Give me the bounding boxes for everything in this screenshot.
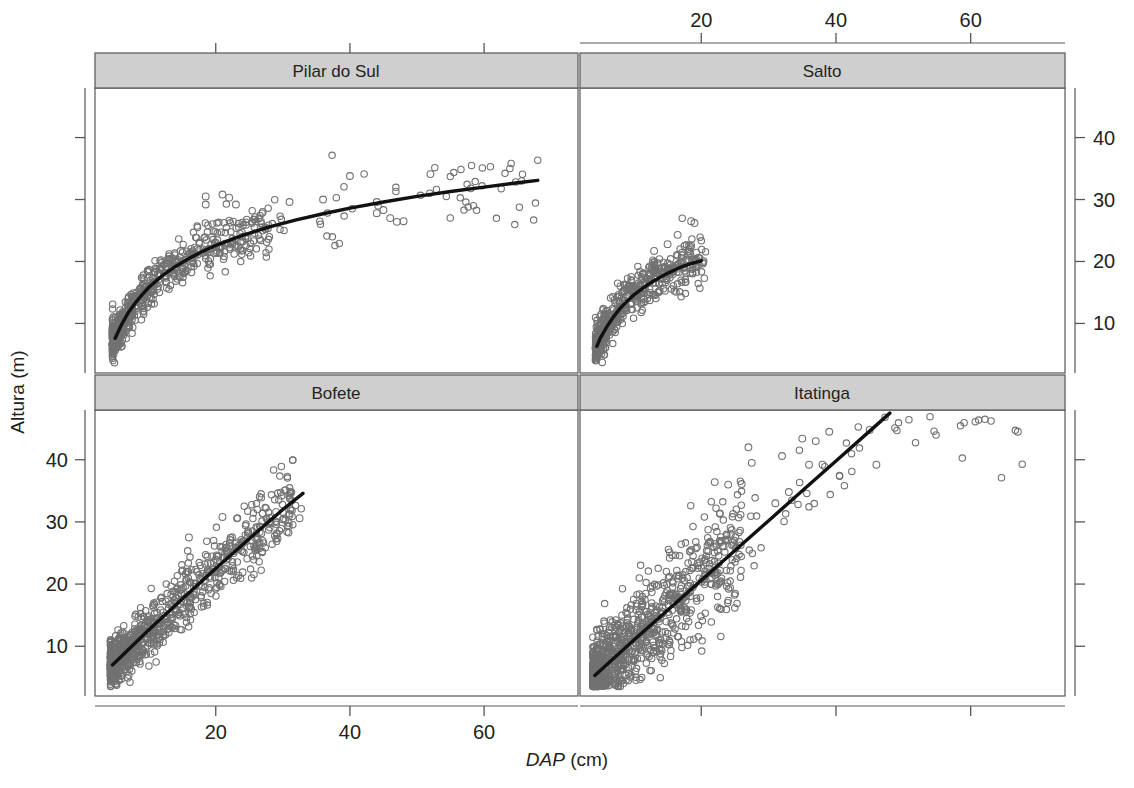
tick-label-right-y-20: 20 [1093,250,1115,272]
x-axis-title-italic: DAP [526,749,565,770]
panel-frame-bofete [95,410,578,696]
tick-label-bottom-x-60: 60 [473,721,495,743]
strip-title-itatinga: Itatinga [794,384,850,403]
panel-frame-itatinga [580,410,1065,696]
panel-frame-pilar-do-sul [95,88,578,373]
trellis-scatter-figure: Pilar do Sul Salto Bofete Itatinga [0,0,1134,788]
tick-label-left-y-10: 10 [46,635,68,657]
y-axis-title: Altura (m) [7,350,28,433]
x-axis-title-rest: (cm) [565,749,608,770]
tick-label-bottom-x-40: 40 [339,721,361,743]
tick-label-right-y-40: 40 [1093,127,1115,149]
x-axis-title: DAP (cm) [526,749,608,770]
panel-itatinga: Itatinga [580,375,1065,696]
tick-label-left-y-40: 40 [46,449,68,471]
strip-title-bofete: Bofete [311,384,360,403]
tick-label-right-y-10: 10 [1093,312,1115,334]
panel-pilar-do-sul: Pilar do Sul [95,53,578,373]
panel-bofete: Bofete [95,375,578,696]
panel-salto: Salto [580,53,1065,373]
panel-frame-salto [580,88,1065,373]
figure-root: Pilar do Sul Salto Bofete Itatinga [0,0,1134,788]
tick-label-left-y-20: 20 [46,573,68,595]
tick-label-top-x-60: 60 [960,9,982,31]
tick-label-right-y-30: 30 [1093,189,1115,211]
tick-label-bottom-x-20: 20 [205,721,227,743]
tick-label-top-x-20: 20 [690,9,712,31]
strip-title-pilar-do-sul: Pilar do Sul [293,62,380,81]
tick-label-left-y-30: 30 [46,511,68,533]
strip-title-salto: Salto [803,62,842,81]
tick-label-top-x-40: 40 [825,9,847,31]
